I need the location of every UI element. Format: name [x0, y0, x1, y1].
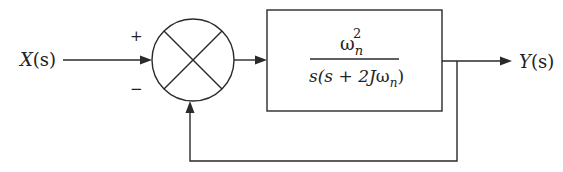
- output-signal-arrow: [442, 57, 512, 66]
- input-arg: (s): [33, 49, 56, 70]
- output-label: Y(s): [519, 51, 554, 72]
- denominator-prefix: s(s + 2J: [309, 66, 377, 86]
- error-signal-arrow: [234, 56, 267, 65]
- denominator-subscript: n: [390, 76, 398, 90]
- output-arg: (s): [531, 51, 554, 72]
- minus-sign: −: [130, 80, 143, 98]
- numerator-superscript: 2: [353, 26, 361, 41]
- plus-sign: +: [130, 27, 143, 45]
- denominator-suffix: ): [397, 66, 404, 86]
- input-label: X(s): [18, 49, 56, 70]
- input-letter: X: [18, 49, 34, 70]
- block-diagram: X(s) + − ωn 2 s(s + 2Jωn) Y(s): [0, 0, 563, 172]
- denominator-omega: ω: [376, 66, 390, 86]
- numerator-subscript: n: [355, 43, 363, 58]
- transfer-denominator: s(s + 2Jωn): [309, 66, 404, 90]
- summing-junction: [152, 19, 234, 101]
- input-signal-arrow: [63, 56, 152, 65]
